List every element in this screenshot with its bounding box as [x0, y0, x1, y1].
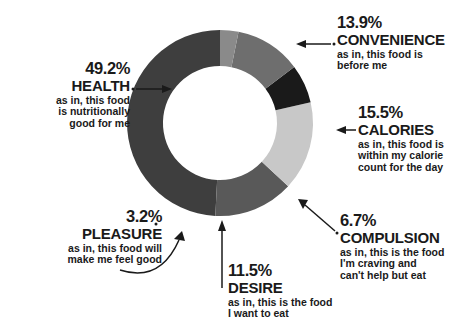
- callout-desire-percent: 11.5%: [228, 262, 348, 279]
- leader-line-compulsion: [305, 205, 335, 231]
- donut-slice-health[interactable]: [127, 30, 220, 216]
- leader-arrowhead-convenience: [296, 40, 306, 48]
- callout-calories-percent: 15.5%: [358, 104, 469, 121]
- leader-dot-compulsion: [336, 232, 339, 235]
- callout-health-description: as in, this food is nutritionally good f…: [6, 95, 130, 131]
- callout-convenience-percent: 13.9%: [337, 14, 467, 31]
- callout-calories-description: as in, this food is within my calorie co…: [358, 139, 469, 175]
- callout-health-percent: 49.2%: [6, 60, 130, 77]
- callout-pleasure-description: as in, this food will make me feel good: [36, 243, 162, 267]
- leader-arrowhead-desire: [218, 220, 226, 231]
- callout-compulsion-description: as in, this is the food I'm craving and …: [340, 247, 469, 283]
- callout-convenience-category: CONVENIENCE: [337, 32, 467, 47]
- callout-pleasure: 3.2% PLEASURE as in, this food will make…: [36, 208, 162, 266]
- callout-convenience-description: as in, this food is before me: [337, 49, 467, 73]
- callout-compulsion-percent: 6.7%: [340, 212, 469, 229]
- callout-compulsion: 6.7% COMPULSION as in, this is the food …: [340, 212, 469, 282]
- leader-arrowhead-calories: [336, 126, 346, 134]
- callout-pleasure-percent: 3.2%: [36, 208, 162, 225]
- leader-dot-convenience: [333, 43, 336, 46]
- callout-compulsion-category: COMPULSION: [340, 230, 469, 245]
- callout-health-category: HEALTH: [6, 78, 130, 93]
- leader-arrowhead-compulsion: [298, 199, 308, 209]
- chart-container: 49.2% HEALTH as in, this food is nutriti…: [0, 0, 469, 336]
- callout-desire-description: as in, this is the food I want to eat: [228, 297, 348, 321]
- donut-slice-group: [127, 30, 313, 216]
- leader-arrowhead-pleasure: [174, 231, 185, 241]
- callout-calories-category: CALORIES: [358, 122, 469, 137]
- callout-pleasure-category: PLEASURE: [36, 226, 162, 241]
- callout-convenience: 13.9% CONVENIENCE as in, this food is be…: [337, 14, 467, 72]
- leader-dot-health: [132, 88, 135, 91]
- callout-health: 49.2% HEALTH as in, this food is nutriti…: [6, 60, 130, 130]
- callout-desire: 11.5% DESIRE as in, this is the food I w…: [228, 262, 348, 320]
- callout-desire-category: DESIRE: [228, 280, 348, 295]
- callout-calories: 15.5% CALORIES as in, this food is withi…: [358, 104, 469, 174]
